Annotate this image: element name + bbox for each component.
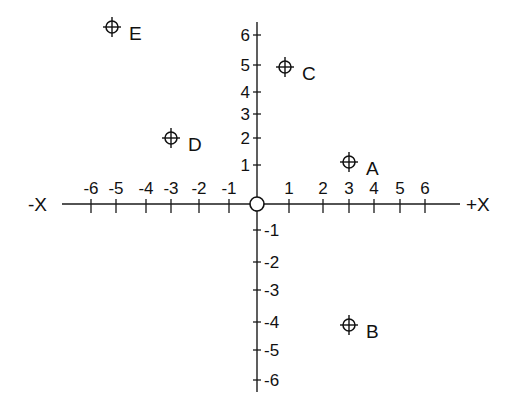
- crosshair-marker-icon: [103, 17, 121, 37]
- point-label: C: [302, 63, 316, 84]
- y-tick-label: 2: [241, 129, 250, 148]
- y-tick-label: -2: [264, 253, 279, 272]
- x-tick-label: 3: [344, 179, 353, 198]
- x-tick-label: 2: [318, 179, 327, 198]
- x-tick: -6: [83, 179, 98, 213]
- crosshair-marker-icon: [162, 128, 180, 148]
- y-tick: 1: [241, 156, 261, 175]
- y-tick-label: -3: [264, 281, 279, 300]
- point-d: D: [162, 128, 202, 155]
- y-tick: 3: [241, 105, 261, 124]
- x-negative-label: -X: [28, 194, 47, 215]
- point-c: C: [276, 57, 316, 84]
- x-tick: -3: [163, 179, 178, 213]
- coordinate-plane-figure: -X +X -6-5-4-3-2-1123456 654321-1-2-3-4-…: [0, 0, 524, 417]
- y-tick: 6: [241, 26, 261, 45]
- y-tick-label: -4: [264, 313, 279, 332]
- point-label: E: [129, 23, 142, 44]
- y-tick-label: -5: [264, 341, 279, 360]
- x-tick-label: 5: [395, 179, 404, 198]
- x-tick-label: -4: [138, 179, 153, 198]
- x-tick: 5: [395, 179, 404, 213]
- x-tick: 3: [344, 179, 353, 213]
- x-tick-label: 6: [420, 179, 429, 198]
- x-tick-label: 4: [369, 179, 378, 198]
- coordinate-plane-svg: -X +X -6-5-4-3-2-1123456 654321-1-2-3-4-…: [0, 0, 524, 417]
- y-tick-label: -1: [264, 221, 279, 240]
- y-tick-label: 4: [241, 83, 250, 102]
- point-b: B: [340, 315, 379, 342]
- x-tick-label: -2: [191, 179, 206, 198]
- x-tick-label: -1: [221, 179, 236, 198]
- x-positive-label: +X: [466, 194, 490, 215]
- point-e: E: [103, 17, 142, 44]
- x-tick: -4: [138, 179, 153, 213]
- x-tick: -2: [191, 179, 206, 213]
- x-tick: 6: [420, 179, 429, 213]
- crosshair-marker-icon: [276, 57, 294, 77]
- y-tick-label: -6: [264, 371, 279, 390]
- x-tick: -1: [221, 179, 236, 213]
- point-label: B: [366, 321, 379, 342]
- y-tick: 5: [241, 56, 261, 75]
- x-tick-label: -5: [108, 179, 123, 198]
- y-tick: 2: [241, 129, 261, 148]
- crosshair-marker-icon: [340, 315, 358, 335]
- x-tick: 4: [369, 179, 378, 213]
- point-a: A: [340, 152, 379, 179]
- point-label: D: [188, 134, 202, 155]
- y-tick: 4: [241, 83, 261, 102]
- crosshair-marker-icon: [340, 152, 358, 172]
- y-tick-label: 1: [241, 156, 250, 175]
- y-tick-label: 5: [241, 56, 250, 75]
- x-tick-label: 1: [284, 179, 293, 198]
- x-tick: 2: [318, 179, 327, 213]
- x-tick-label: -3: [163, 179, 178, 198]
- point-label: A: [366, 158, 379, 179]
- x-tick-label: -6: [83, 179, 98, 198]
- y-tick-label: 6: [241, 26, 250, 45]
- origin-marker: [250, 197, 264, 211]
- x-tick: -5: [108, 179, 123, 213]
- x-tick: 1: [284, 179, 293, 213]
- y-tick-label: 3: [241, 105, 250, 124]
